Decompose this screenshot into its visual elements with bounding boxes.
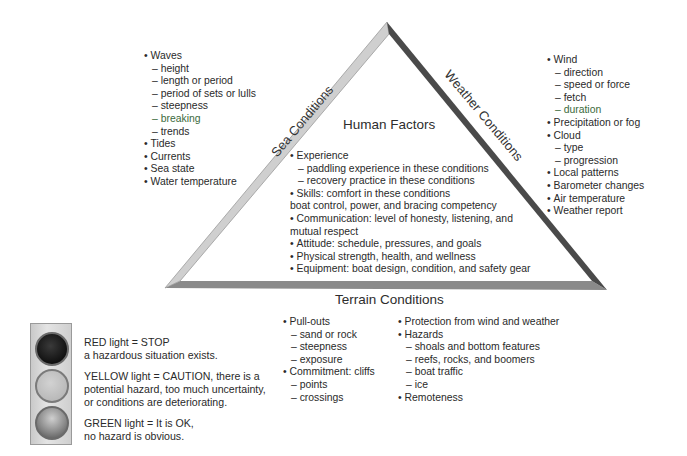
legend-red: RED light = STOP a hazardous situation e… <box>84 336 218 362</box>
list-item: direction <box>547 67 644 80</box>
list-item: Cloud <box>547 130 644 143</box>
list-item: Waves <box>144 50 256 63</box>
list-item: sand or rock <box>283 329 375 342</box>
list-item: mutual respect <box>290 226 530 239</box>
legend-green: GREEN light = It is OK, no hazard is obv… <box>84 417 194 443</box>
legend-green-line1: GREEN light = It is OK, <box>84 417 194 430</box>
list-item: shoals and bottom features <box>398 341 559 354</box>
list-item: Experience <box>290 150 530 163</box>
human-factors-list: Experiencepaddling experience in these c… <box>290 150 530 276</box>
list-item: steepness <box>283 341 375 354</box>
list-item: height <box>144 63 256 76</box>
yellow-light-icon <box>35 369 69 403</box>
traffic-light <box>30 323 72 445</box>
list-item: Weather report <box>547 205 644 218</box>
list-item: Commitment: cliffs <box>283 366 375 379</box>
list-item: trends <box>144 126 256 139</box>
list-item: Sea state <box>144 163 256 176</box>
legend-yellow-line2: potential hazard, too much uncertainty, <box>84 383 266 396</box>
legend-yellow-line1: YELLOW light = CAUTION, there is a <box>84 370 266 383</box>
list-item: Currents <box>144 151 256 164</box>
terrain-list-col2: Protection from wind and weatherHazardss… <box>398 316 559 404</box>
list-item: Physical strength, health, and wellness <box>290 251 530 264</box>
terrain-edge <box>165 281 607 290</box>
list-item: Water temperature <box>144 176 256 189</box>
sea-conditions-list: Wavesheightlength or periodperiod of set… <box>144 50 256 189</box>
legend-red-line1: RED light = STOP <box>84 336 218 349</box>
list-item: speed or force <box>547 79 644 92</box>
list-item: type <box>547 142 644 155</box>
list-item: crossings <box>283 392 375 405</box>
list-item: Equipment: boat design, condition, and s… <box>290 263 530 276</box>
list-item: length or period <box>144 75 256 88</box>
list-item: Air temperature <box>547 193 644 206</box>
terrain-conditions-title: Terrain Conditions <box>335 292 444 307</box>
list-item: ice <box>398 379 559 392</box>
list-item: Barometer changes <box>547 180 644 193</box>
list-item: Hazards <box>398 329 559 342</box>
list-item: exposure <box>283 354 375 367</box>
list-item: paddling experience in these conditions <box>290 163 530 176</box>
list-item: Remoteness <box>398 392 559 405</box>
list-item: Local patterns <box>547 167 644 180</box>
list-item: reefs, rocks, and boomers <box>398 354 559 367</box>
list-item: Skills: comfort in these conditions <box>290 188 530 201</box>
legend-yellow-line3: or conditions are deteriorating. <box>84 396 266 409</box>
list-item: breaking <box>144 113 256 126</box>
green-light-icon <box>35 406 69 440</box>
list-item: Wind <box>547 54 644 67</box>
list-item: progression <box>547 155 644 168</box>
list-item: Communication: level of honesty, listeni… <box>290 213 530 226</box>
list-item: period of sets or lulls <box>144 88 256 101</box>
list-item: Attitude: schedule, pressures, and goals <box>290 238 530 251</box>
red-light-icon <box>35 332 69 366</box>
list-item: Pull-outs <box>283 316 375 329</box>
human-factors-title: Human Factors <box>343 117 435 132</box>
list-item: fetch <box>547 92 644 105</box>
list-item: steepness <box>144 100 256 113</box>
terrain-list-col1: Pull-outssand or rocksteepnessexposureCo… <box>283 316 375 404</box>
list-item: points <box>283 379 375 392</box>
weather-conditions-list: Winddirectionspeed or forcefetchduration… <box>547 54 644 218</box>
list-item: Protection from wind and weather <box>398 316 559 329</box>
list-item: Tides <box>144 138 256 151</box>
legend-green-line2: no hazard is obvious. <box>84 430 194 443</box>
list-item: boat control, power, and bracing compete… <box>290 200 530 213</box>
legend-yellow: YELLOW light = CAUTION, there is a poten… <box>84 370 266 409</box>
list-item: recovery practice in these conditions <box>290 175 530 188</box>
legend-red-line2: a hazardous situation exists. <box>84 349 218 362</box>
list-item: duration <box>547 104 644 117</box>
list-item: boat traffic <box>398 366 559 379</box>
list-item: Precipitation or fog <box>547 117 644 130</box>
